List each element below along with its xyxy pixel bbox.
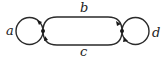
vertex-right (120, 29, 124, 33)
label-a: a (6, 23, 14, 38)
label-c: c (80, 44, 88, 58)
edge-b (43, 17, 122, 31)
graph-diagram: a b c d (0, 0, 168, 58)
label-b: b (80, 0, 88, 15)
edge-c (43, 31, 122, 45)
vertex-left (41, 29, 45, 33)
label-d: d (152, 25, 160, 40)
arrowhead-icon (44, 36, 48, 41)
